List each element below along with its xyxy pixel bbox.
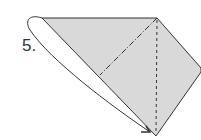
origami-diagram: [0, 0, 201, 140]
paper-shape: [42, 18, 201, 136]
